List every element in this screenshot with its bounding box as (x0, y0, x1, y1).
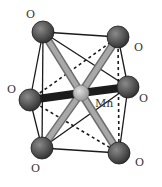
label-O_tr: O (134, 41, 143, 54)
solid-edge-O_tl-O_bl (42, 32, 43, 148)
label-mn: Mn (95, 97, 113, 110)
label-O_l: O (7, 83, 16, 96)
oxygen-atom-O_l (19, 89, 41, 111)
oxygen-atom-O_tl (32, 21, 54, 43)
structure-svg: OOOOOOMn (0, 0, 162, 187)
oxygen-atom-O_bl (31, 137, 53, 159)
oxygen-atom-O_r (117, 76, 139, 98)
label-O_bl: O (31, 162, 40, 175)
manganese-atom (73, 85, 89, 101)
label-O_tl: O (26, 8, 35, 21)
solid-edge-O_bl-O_br (42, 148, 119, 153)
label-O_br: O (135, 156, 144, 169)
label-O_r: O (139, 92, 148, 105)
oxygen-atom-O_tr (107, 26, 129, 48)
mno6-octahedron-diagram: OOOOOOMn (0, 0, 162, 187)
oxygen-atom-O_br (108, 142, 130, 164)
dashed-edge-O_tr-O_br (118, 37, 119, 153)
mn-atom-group (73, 85, 89, 101)
